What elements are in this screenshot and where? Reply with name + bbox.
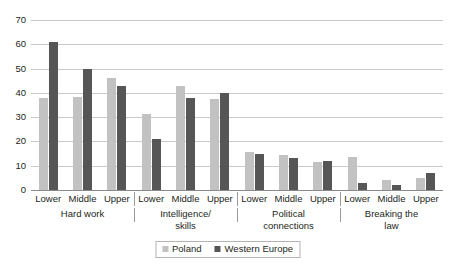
group-label: Breaking thelaw [365, 208, 418, 231]
bar-poland [245, 152, 254, 190]
group-separator [237, 192, 238, 206]
group-label: Intelligence/skills [160, 208, 211, 231]
bar-western-europe [83, 69, 92, 190]
bar-poland [313, 162, 322, 190]
bar-western-europe [392, 185, 401, 190]
gridline-0: 0 [31, 190, 443, 191]
legend-swatch-icon [162, 246, 168, 252]
category-label-upper: Upper [413, 192, 439, 205]
y-axis-tick-20: 20 [15, 137, 26, 147]
category-label-upper: Upper [207, 192, 233, 205]
category-axis-labels: LowerMiddleUpperLowerMiddleUpperLowerMid… [31, 192, 443, 206]
legend-item: Western Europe [215, 243, 293, 255]
category-label-upper: Upper [310, 192, 336, 205]
y-axis-tick-50: 50 [15, 64, 26, 74]
bar-western-europe [255, 154, 264, 190]
y-axis-tick-30: 30 [15, 112, 26, 122]
legend-item: Poland [162, 243, 202, 255]
group-axis-labels: Hard workIntelligence/skillsPoliticalcon… [31, 208, 443, 234]
y-axis-tick-70: 70 [15, 15, 26, 25]
group-separator [134, 208, 135, 222]
bar-poland [348, 157, 357, 190]
bar-western-europe [186, 98, 195, 190]
bar-western-europe [117, 86, 126, 190]
category-label-upper: Upper [104, 192, 130, 205]
bar-poland [39, 98, 48, 190]
group-separator [340, 192, 341, 206]
y-axis-tick-10: 10 [15, 161, 26, 171]
legend-swatch-icon [215, 246, 221, 252]
bar-western-europe [152, 139, 161, 190]
bar-poland [176, 86, 185, 190]
bar-western-europe [323, 161, 332, 190]
group-separator [134, 192, 135, 206]
bar-poland [142, 114, 151, 191]
category-label-lower: Lower [344, 192, 370, 205]
chart-legend: PolandWestern Europe [155, 241, 300, 258]
category-label-lower: Lower [138, 192, 164, 205]
y-axis-tick-60: 60 [15, 40, 26, 50]
legend-label: Western Europe [225, 243, 293, 255]
bar-poland [107, 78, 116, 190]
bar-western-europe [426, 173, 435, 190]
category-label-middle: Middle [378, 192, 406, 205]
bars-layer [31, 20, 443, 190]
group-separator [237, 208, 238, 222]
category-label-middle: Middle [172, 192, 200, 205]
bar-poland [279, 155, 288, 190]
group-label: Politicalconnections [263, 208, 314, 231]
y-axis-tick-40: 40 [15, 88, 26, 98]
plot-area: 706050403020100 [31, 20, 443, 190]
category-label-middle: Middle [275, 192, 303, 205]
group-separator [340, 208, 341, 222]
bar-chart: 706050403020100 LowerMiddleUpperLowerMid… [0, 0, 455, 277]
bar-western-europe [220, 93, 229, 190]
category-label-lower: Lower [241, 192, 267, 205]
bar-poland [73, 97, 82, 191]
bar-poland [416, 178, 425, 190]
category-label-middle: Middle [69, 192, 97, 205]
bar-poland [210, 99, 219, 190]
bar-western-europe [358, 183, 367, 190]
bar-western-europe [49, 42, 58, 190]
bar-poland [382, 180, 391, 190]
legend-label: Poland [172, 243, 202, 255]
category-label-lower: Lower [35, 192, 61, 205]
bar-western-europe [289, 158, 298, 190]
y-axis-tick-0: 0 [21, 185, 26, 195]
group-label: Hard work [61, 208, 104, 220]
